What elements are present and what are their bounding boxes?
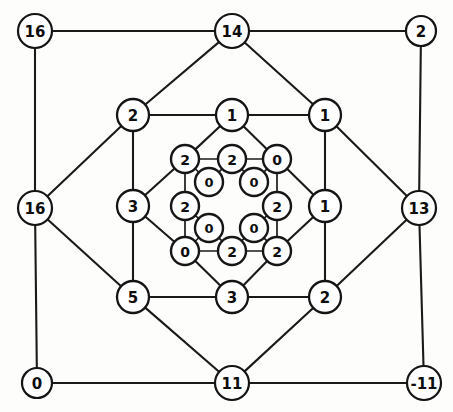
- node-circle[interactable]: [171, 192, 199, 220]
- node-circle[interactable]: [22, 368, 52, 398]
- graph-edge: [244, 42, 314, 105]
- graph-node-m-s[interactable]: 3: [216, 281, 248, 313]
- node-circle[interactable]: [263, 192, 291, 220]
- node-circle[interactable]: [18, 191, 52, 225]
- graph-node-i-se[interactable]: 2: [263, 237, 291, 265]
- node-circle[interactable]: [407, 366, 441, 400]
- graph-node-o-n[interactable]: 14: [215, 14, 249, 48]
- graph-edge: [47, 125, 123, 197]
- graph-node-o-sw[interactable]: 0: [22, 368, 52, 398]
- node-circle[interactable]: [263, 145, 291, 173]
- node-circle[interactable]: [309, 281, 341, 313]
- graph-edge: [35, 224, 37, 369]
- node-circle[interactable]: [171, 237, 199, 265]
- node-circle[interactable]: [263, 237, 291, 265]
- graph-node-c-se[interactable]: 0: [240, 214, 268, 242]
- graph-node-o-nw[interactable]: 16: [18, 14, 52, 48]
- graph-node-m-w[interactable]: 3: [117, 190, 149, 222]
- node-circle[interactable]: [309, 99, 341, 131]
- graph-node-m-ne[interactable]: 1: [309, 99, 341, 131]
- node-circle[interactable]: [171, 145, 199, 173]
- graph-node-i-nw[interactable]: 2: [171, 145, 199, 173]
- graph-node-c-nw[interactable]: 0: [195, 168, 223, 196]
- node-circle[interactable]: [117, 99, 149, 131]
- graph-edge: [194, 260, 221, 286]
- graph-edge: [419, 224, 423, 367]
- node-circle[interactable]: [240, 214, 268, 242]
- graph-figure: 161421613011-1121131532220220220000: [0, 0, 453, 412]
- node-circle[interactable]: [215, 366, 249, 400]
- node-layer: 161421613011-1121131532220220220000: [18, 14, 441, 400]
- graph-edge: [286, 216, 314, 242]
- graph-node-c-ne[interactable]: 0: [240, 168, 268, 196]
- edge-layer: [35, 31, 424, 383]
- graph-node-o-ne[interactable]: 2: [406, 16, 436, 46]
- node-circle[interactable]: [195, 214, 223, 242]
- graph-node-o-e[interactable]: 13: [402, 191, 436, 225]
- node-circle[interactable]: [195, 168, 223, 196]
- node-circle[interactable]: [406, 16, 436, 46]
- graph-edge: [194, 125, 221, 150]
- graph-edge: [336, 219, 407, 287]
- node-circle[interactable]: [309, 190, 341, 222]
- graph-node-i-e[interactable]: 2: [263, 192, 291, 220]
- node-circle[interactable]: [218, 237, 246, 265]
- graph-node-m-e[interactable]: 1: [309, 190, 341, 222]
- graph-edge: [243, 125, 268, 149]
- graph-edge: [336, 126, 408, 197]
- node-circle[interactable]: [117, 281, 149, 313]
- node-circle[interactable]: [402, 191, 436, 225]
- graph-node-i-w[interactable]: 2: [171, 192, 199, 220]
- graph-edge: [244, 307, 314, 372]
- graph-node-i-s[interactable]: 2: [218, 237, 246, 265]
- graph-edge: [286, 168, 314, 195]
- graph-node-o-w[interactable]: 16: [18, 191, 52, 225]
- node-circle[interactable]: [18, 14, 52, 48]
- graph-edge: [144, 41, 219, 105]
- node-circle[interactable]: [218, 145, 246, 173]
- node-circle[interactable]: [216, 281, 248, 313]
- node-circle[interactable]: [216, 99, 248, 131]
- graph-node-c-sw[interactable]: 0: [195, 214, 223, 242]
- graph-node-o-s[interactable]: 11: [215, 366, 249, 400]
- graph-edge: [144, 216, 175, 243]
- graph-edge: [144, 168, 175, 196]
- node-circle[interactable]: [117, 190, 149, 222]
- graph-node-i-n[interactable]: 2: [218, 145, 246, 173]
- graph-canvas: 161421613011-1121131532220220220000: [0, 0, 453, 412]
- graph-edge: [419, 45, 421, 192]
- graph-edge: [144, 307, 220, 373]
- graph-node-o-se[interactable]: -11: [407, 366, 441, 400]
- graph-node-m-se[interactable]: 2: [309, 281, 341, 313]
- graph-edge: [242, 260, 267, 286]
- graph-node-m-sw[interactable]: 5: [117, 281, 149, 313]
- node-circle[interactable]: [240, 168, 268, 196]
- graph-edge: [47, 219, 122, 287]
- graph-node-i-sw[interactable]: 0: [171, 237, 199, 265]
- node-circle[interactable]: [215, 14, 249, 48]
- graph-node-m-n[interactable]: 1: [216, 99, 248, 131]
- graph-node-i-ne[interactable]: 0: [263, 145, 291, 173]
- graph-node-m-nw[interactable]: 2: [117, 99, 149, 131]
